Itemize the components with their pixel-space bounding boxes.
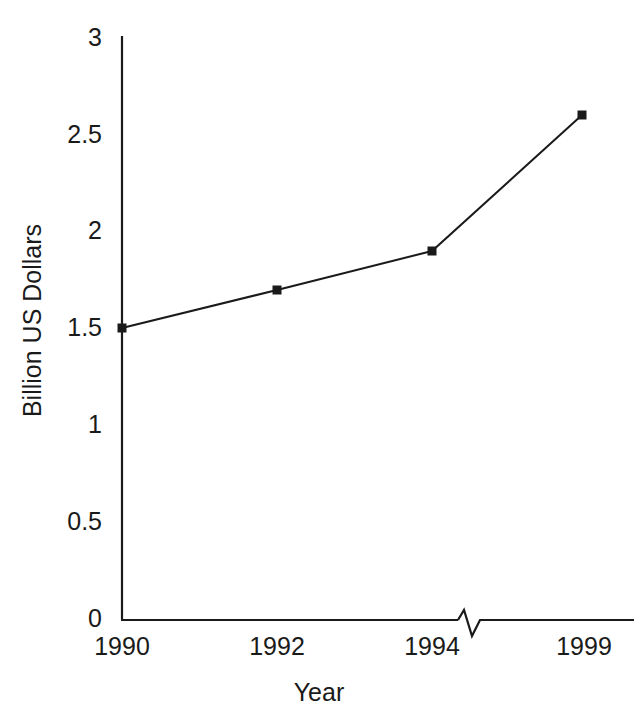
x-axis-title: Year [0, 678, 638, 707]
x-tick-label-1999: 1999 [556, 634, 612, 659]
y-axis-title: Billion US Dollars [10, 0, 54, 681]
x-tick-label-1994: 1994 [404, 634, 460, 659]
x-tick-label-1990: 1990 [94, 634, 150, 659]
x-axis-tick-labels: 1990 1992 1994 1999 [0, 0, 638, 721]
x-tick-label-1992: 1992 [249, 634, 305, 659]
line-chart: 3 2.5 2 1.5 1 0.5 0 1990 1992 1994 1999 … [0, 0, 638, 721]
y-axis-title-wrapper: Billion US Dollars [10, 0, 54, 681]
